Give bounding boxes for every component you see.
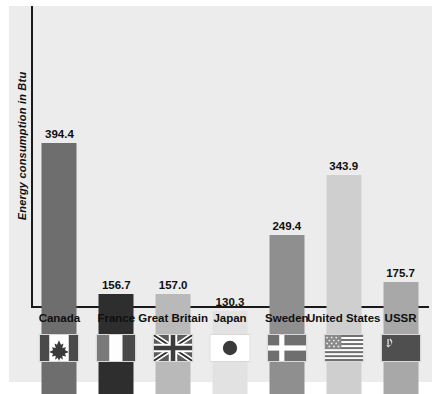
x-axis-category-label: Great Britain <box>138 312 208 324</box>
x-axis-category-label: France <box>97 312 135 324</box>
x-axis-category-label: Japan <box>213 312 246 324</box>
x-axis-category-label: Canada <box>39 312 81 324</box>
bar-value-label: 130.3 <box>216 296 245 308</box>
bar-value-label: 343.9 <box>329 160 358 172</box>
bar-value-label: 175.7 <box>386 267 415 279</box>
x-axis-category-label: United States <box>307 312 381 324</box>
united-states-flag-icon <box>323 334 364 362</box>
bar-value-label: 156.7 <box>102 279 131 291</box>
canada-flag-icon <box>39 334 80 362</box>
y-axis-label: Energy consumption in Btu <box>16 46 28 246</box>
x-axis-category-label: Sweden <box>265 312 308 324</box>
bar-chart-figure: Energy consumption in Btu 394.4Canada 15… <box>0 0 439 394</box>
japan-flag-icon <box>210 334 251 362</box>
x-axis-category-label: USSR <box>385 312 417 324</box>
great-britain-flag-icon <box>153 334 194 362</box>
sweden-flag-icon <box>266 334 307 362</box>
bar-value-label: 249.4 <box>272 220 301 232</box>
bar-value-label: 157.0 <box>159 279 188 291</box>
ussr-flag-icon <box>380 334 421 362</box>
bar-value-label: 394.4 <box>45 128 74 140</box>
france-flag-icon <box>96 334 137 362</box>
plot-area: 394.4Canada 156.7France 157.0Great Brita… <box>31 0 429 394</box>
